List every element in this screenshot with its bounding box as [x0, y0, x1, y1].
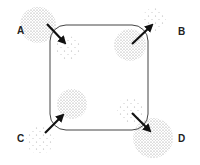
- membrane-diagram: [0, 0, 200, 165]
- label-a: A: [17, 25, 24, 36]
- label-c: C: [17, 133, 24, 144]
- arrow-c-icon: [45, 116, 62, 133]
- region-c: [26, 89, 87, 154]
- label-d: D: [178, 133, 185, 144]
- region-b: [114, 8, 166, 61]
- region-d: [117, 97, 173, 158]
- label-b: B: [178, 26, 185, 37]
